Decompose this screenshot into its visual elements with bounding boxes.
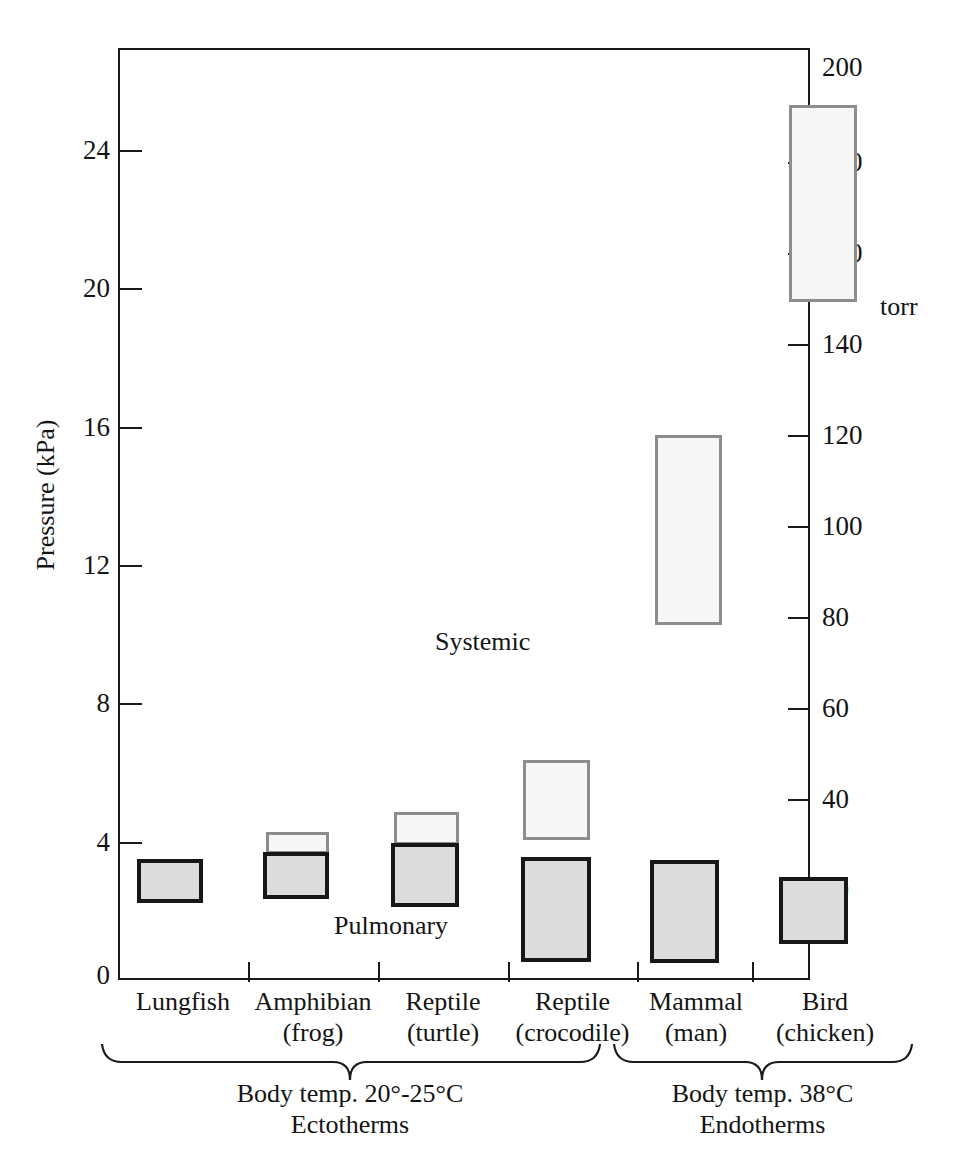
left-tick-24 (120, 150, 142, 152)
left-tick-4 (120, 842, 142, 844)
cat-divider-5 (752, 962, 754, 982)
group-label-line2: Endotherms (600, 1109, 925, 1140)
cat-divider-2 (378, 962, 380, 982)
bar-pulmonary-amphibian (263, 852, 329, 899)
category-label-amphibian: Amphibian (frog) (248, 986, 378, 1048)
category-label-line1: Amphibian (248, 986, 378, 1017)
group-label-line2: Ectotherms (180, 1109, 520, 1140)
group-label-endotherms: Body temp. 38°C Endotherms (600, 1078, 925, 1140)
group-label-line1: Body temp. 38°C (600, 1078, 925, 1109)
group-label-line1: Body temp. 20°-25°C (180, 1078, 520, 1109)
left-tick-label-0: 0 (48, 962, 110, 989)
right-tick-label-200: 200 (822, 54, 863, 81)
left-tick-label-20: 20 (48, 275, 110, 302)
cat-divider-1 (248, 962, 250, 982)
brace-ectotherms (102, 1044, 600, 1080)
right-tick-label-80: 80 (822, 604, 849, 631)
bar-systemic-reptile-turtle (394, 812, 459, 845)
left-tick-16 (120, 427, 142, 429)
left-tick-12 (120, 565, 142, 567)
right-tick-label-60: 60 (822, 695, 849, 722)
category-label-line1: Reptile (378, 986, 508, 1017)
right-tick-40 (788, 799, 810, 801)
bar-systemic-bird (789, 105, 857, 302)
category-label-line1: Mammal (637, 986, 755, 1017)
left-tick-label-24: 24 (48, 137, 110, 164)
category-label-line1: Reptile (500, 986, 645, 1017)
bar-pulmonary-mammal (650, 860, 719, 963)
category-label-line1: Lungfish (118, 986, 248, 1017)
category-label-bird: Bird (chicken) (750, 986, 900, 1048)
right-tick-80 (788, 617, 810, 619)
bar-pulmonary-reptile-crocodile (521, 857, 591, 962)
bar-systemic-mammal (655, 435, 722, 625)
annotation-pulmonary: Pulmonary (334, 911, 448, 941)
category-label-reptile-turtle: Reptile (turtle) (378, 986, 508, 1048)
category-label-lungfish: Lungfish (118, 986, 248, 1017)
right-tick-label-40: 40 (822, 786, 849, 813)
y-axis-unit-right: torr (880, 292, 918, 322)
bar-pulmonary-reptile-turtle (391, 843, 459, 907)
left-tick-8 (120, 703, 142, 705)
left-tick-label-4: 4 (48, 829, 110, 856)
category-label-mammal: Mammal (man) (637, 986, 755, 1048)
right-tick-label-100: 100 (822, 513, 863, 540)
bar-pulmonary-bird (779, 877, 848, 944)
brace-endotherms (614, 1044, 912, 1080)
category-label-reptile-crocodile: Reptile (crocodile) (500, 986, 645, 1048)
category-label-line1: Bird (750, 986, 900, 1017)
bar-systemic-amphibian (266, 832, 329, 854)
right-tick-140 (788, 344, 810, 346)
right-tick-60 (788, 708, 810, 710)
annotation-systemic: Systemic (435, 627, 530, 657)
chart-root: 24 20 16 12 8 4 0 Pressure (kPa) 200 180… (0, 0, 976, 1152)
left-tick-20 (120, 288, 142, 290)
left-tick-label-8: 8 (48, 690, 110, 717)
bar-pulmonary-lungfish (137, 859, 203, 903)
right-tick-label-120: 120 (822, 422, 863, 449)
right-tick-100 (788, 526, 810, 528)
right-tick-label-140: 140 (822, 331, 863, 358)
cat-divider-4 (637, 962, 639, 982)
bar-systemic-reptile-crocodile (523, 760, 590, 840)
cat-divider-3 (508, 962, 510, 982)
y-axis-title-left: Pressure (kPa) (31, 375, 61, 615)
group-label-ectotherms: Body temp. 20°-25°C Ectotherms (180, 1078, 520, 1140)
right-tick-120 (788, 435, 810, 437)
